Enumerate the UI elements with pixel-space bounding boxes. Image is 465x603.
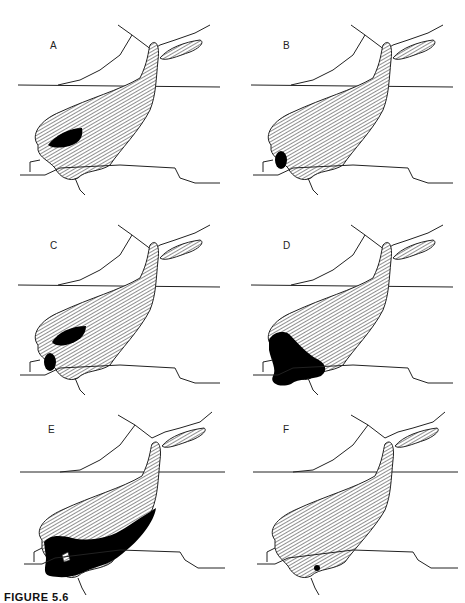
panel-c: C — [0, 200, 232, 395]
panel-label-d: D — [283, 240, 290, 251]
panel-label-f: F — [283, 424, 289, 435]
map-f — [233, 400, 465, 595]
panel-label-a: A — [50, 40, 57, 51]
map-b — [233, 0, 465, 195]
map-a — [0, 0, 232, 195]
map-c — [0, 200, 232, 395]
panel-label-c: C — [50, 240, 57, 251]
figure-caption: FIGURE 5.6 — [4, 591, 69, 603]
panel-label-b: B — [283, 40, 290, 51]
panel-a: A — [0, 0, 232, 195]
panel-d: D — [233, 200, 465, 395]
panel-f: F — [233, 400, 465, 595]
panel-label-e: E — [48, 424, 55, 435]
panel-b: B — [233, 0, 465, 195]
map-d — [233, 200, 465, 395]
panel-e: E — [0, 400, 232, 595]
map-e — [0, 400, 232, 595]
